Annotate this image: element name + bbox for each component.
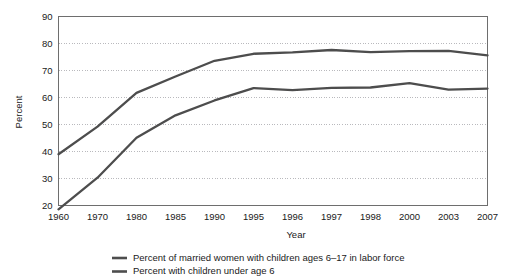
y-tick-label: 90	[42, 11, 53, 22]
x-tick-label: 1997	[321, 211, 342, 222]
series-lines	[59, 50, 488, 209]
legend: Percent of married women with children a…	[112, 252, 404, 277]
plot-frame	[59, 17, 488, 206]
x-tick-label: 1960	[48, 211, 69, 222]
x-tick-label: 1998	[360, 211, 381, 222]
y-tick-label: 30	[42, 173, 53, 184]
legend-label: Percent of married women with children a…	[133, 252, 404, 263]
x-axis-tick-labels: 1960197019801985199019951996199719982000…	[48, 211, 498, 222]
y-tick-label: 50	[42, 119, 53, 130]
plot-border	[59, 17, 488, 206]
legend-label: Percent with children under age 6	[133, 265, 275, 276]
x-tick-label: 1996	[282, 211, 303, 222]
y-tick-label: 60	[42, 92, 53, 103]
y-axis-title: Percent	[13, 95, 24, 128]
line-chart: 9080706050403020 19601970198019851990199…	[0, 0, 517, 279]
y-tick-label: 80	[42, 38, 53, 49]
x-axis-title: Year	[286, 229, 305, 240]
y-tick-label: 70	[42, 65, 53, 76]
x-tick-label: 1970	[87, 211, 108, 222]
y-axis-tick-labels: 9080706050403020	[42, 11, 53, 211]
series-line-1	[59, 50, 488, 154]
chart-container: 9080706050403020 19601970198019851990199…	[0, 0, 517, 279]
x-tick-label: 2003	[438, 211, 459, 222]
x-tick-label: 2007	[477, 211, 498, 222]
x-tick-label: 1990	[204, 211, 225, 222]
x-tick-label: 1995	[243, 211, 264, 222]
gridlines	[59, 44, 488, 206]
y-tick-label: 40	[42, 146, 53, 157]
x-tick-label: 1985	[165, 211, 186, 222]
y-tick-label: 20	[42, 200, 53, 211]
series-line-2	[59, 83, 488, 209]
x-tick-label: 2000	[399, 211, 420, 222]
x-tick-label: 1980	[126, 211, 147, 222]
